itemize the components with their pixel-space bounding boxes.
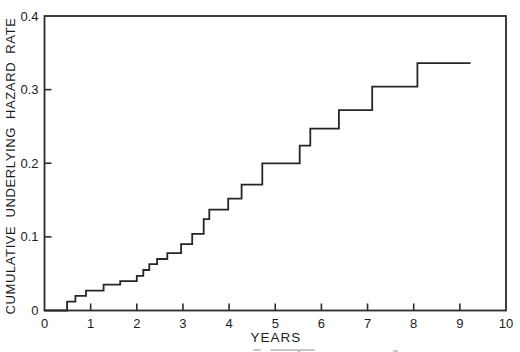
x-axis-title: YEARS xyxy=(251,330,302,345)
x-tick-label: 9 xyxy=(456,316,463,331)
x-tick-label: 6 xyxy=(318,316,325,331)
x-tick-label: 10 xyxy=(499,316,513,331)
x-tick-label: 8 xyxy=(410,316,417,331)
x-tick-label: 4 xyxy=(225,316,232,331)
y-tick-label: 0.4 xyxy=(20,9,38,24)
y-tick-label: 0.2 xyxy=(20,156,38,171)
x-tick-label: 7 xyxy=(364,316,371,331)
y-tick-label: 0.1 xyxy=(20,229,38,244)
y-axis-title-text: CUMULATIVE UNDERLYING HAZARD RATE xyxy=(3,18,18,315)
x-tick-label: 1 xyxy=(87,316,94,331)
x-tick-label: 5 xyxy=(272,316,279,331)
hazard-step-line xyxy=(45,63,471,310)
x-tick-label: 2 xyxy=(133,316,140,331)
hazard-rate-chart: 01234567891000.10.20.30.4 CUMULATIVE UND… xyxy=(0,0,520,352)
y-tick-label: 0.3 xyxy=(20,82,38,97)
cropped-caption-remnant xyxy=(0,347,520,352)
y-tick-label: 0 xyxy=(31,303,38,318)
x-tick-label: 0 xyxy=(41,316,48,331)
plot-area: 01234567891000.10.20.30.4 xyxy=(0,0,520,352)
x-tick-label: 3 xyxy=(179,316,186,331)
